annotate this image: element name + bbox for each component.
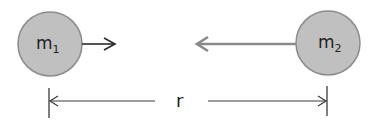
- mass-2: m2: [296, 11, 360, 75]
- distance-label: r: [176, 90, 184, 111]
- gravitation-diagram: m1 m2 r: [0, 0, 379, 126]
- force-arrow-1: [82, 38, 115, 50]
- distance-dimension: r: [49, 86, 327, 118]
- force-arrow-2: [197, 37, 296, 51]
- mass-1: m1: [18, 12, 82, 76]
